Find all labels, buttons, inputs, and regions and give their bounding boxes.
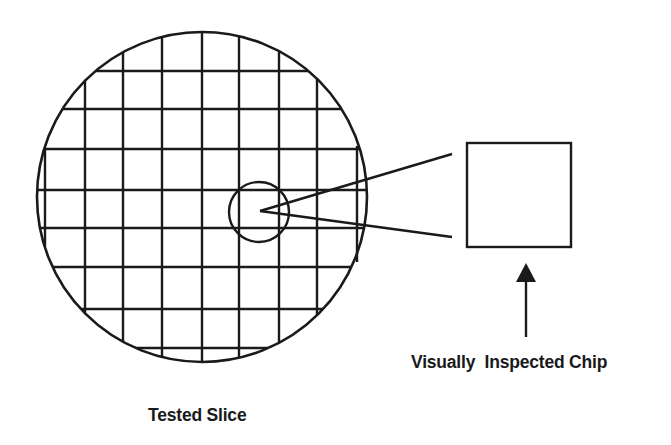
arrow-up-icon xyxy=(516,263,536,282)
diagram-canvas: Visually Inspected Chip Tested Slice xyxy=(0,0,671,445)
wafer-inspection-diagram xyxy=(0,0,671,445)
wafer-label: Tested Slice xyxy=(148,407,246,425)
chip-label: Visually Inspected Chip xyxy=(411,354,607,372)
inspected-chip-box xyxy=(467,143,571,247)
